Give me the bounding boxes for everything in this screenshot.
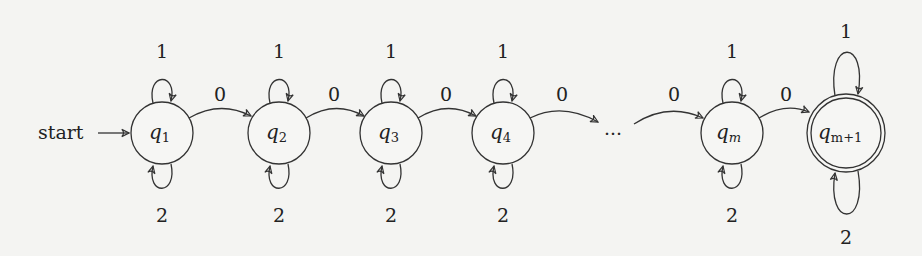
svg-text:2: 2 xyxy=(497,204,509,226)
self-loop-qm-2: 2 xyxy=(722,164,742,226)
state-qm1-accepting: qm+1 xyxy=(807,94,885,172)
transition-q4-ellipsis: 0 xyxy=(530,83,598,122)
self-loop-q4-1: 1 xyxy=(493,40,513,103)
svg-text:0: 0 xyxy=(214,83,226,105)
svg-text:0: 0 xyxy=(556,83,568,105)
svg-text:0: 0 xyxy=(668,83,680,105)
transition-q1-q2: 0 xyxy=(189,83,251,118)
state-q1: q1 xyxy=(131,102,193,164)
self-loop-q1-1: 1 xyxy=(152,40,172,103)
svg-text:1: 1 xyxy=(840,20,852,42)
self-loop-q3-2: 2 xyxy=(381,164,401,226)
transition-q3-q4: 0 xyxy=(418,83,476,118)
svg-text:0: 0 xyxy=(440,83,452,105)
svg-text:2: 2 xyxy=(726,204,738,226)
state-q2: q2 xyxy=(248,102,310,164)
self-loop-qm1-2: 2 xyxy=(834,171,860,248)
transition-q2-q3: 0 xyxy=(306,83,364,118)
svg-text:0: 0 xyxy=(328,83,340,105)
self-loop-q4-2: 2 xyxy=(493,164,513,226)
svg-text:1: 1 xyxy=(497,40,509,62)
self-loop-q2-1: 1 xyxy=(269,40,289,103)
svg-text:1: 1 xyxy=(726,40,738,62)
svg-text:1: 1 xyxy=(273,40,285,62)
self-loop-qm-1: 1 xyxy=(722,40,742,103)
ellipsis: ··· xyxy=(604,122,622,144)
svg-text:2: 2 xyxy=(273,204,285,226)
svg-text:2: 2 xyxy=(156,204,168,226)
state-qm: qm xyxy=(701,102,763,164)
self-loop-q2-2: 2 xyxy=(269,164,289,226)
svg-text:2: 2 xyxy=(840,226,852,248)
self-loop-q1-2: 2 xyxy=(152,164,172,226)
self-loop-q3-1: 1 xyxy=(381,40,401,103)
automaton-diagram: start 0 0 0 0 ··· 0 0 1 2 1 2 xyxy=(0,0,922,256)
transition-qm-qm1: 0 xyxy=(759,83,809,118)
svg-text:0: 0 xyxy=(780,83,792,105)
svg-text:2: 2 xyxy=(385,204,397,226)
transition-ellipsis-qm: 0 xyxy=(634,83,703,124)
svg-text:1: 1 xyxy=(156,40,168,62)
start-label: start xyxy=(38,121,84,143)
svg-text:1: 1 xyxy=(385,40,397,62)
self-loop-qm1-1: 1 xyxy=(834,20,860,96)
state-q3: q3 xyxy=(360,102,422,164)
state-q4: q4 xyxy=(472,102,534,164)
